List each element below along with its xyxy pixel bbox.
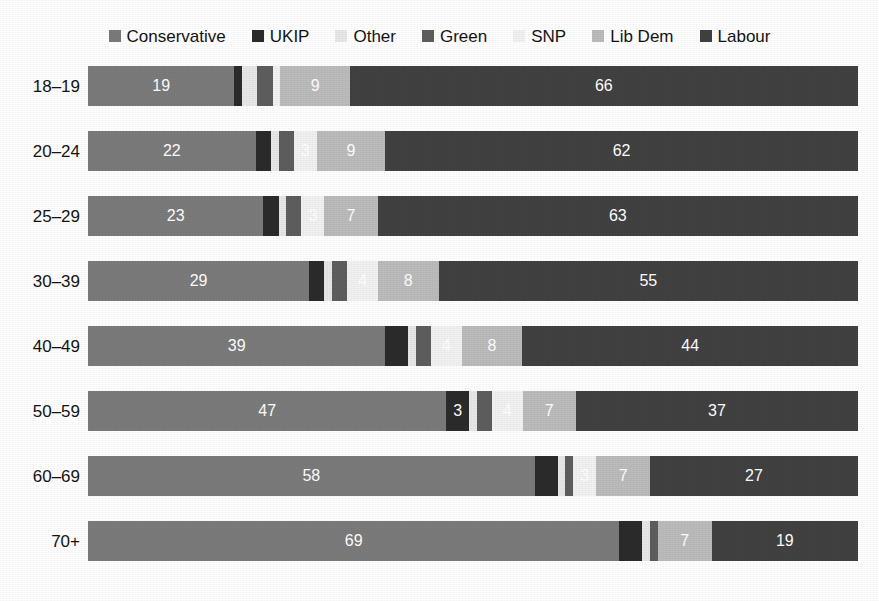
bar-segment-conservative[interactable]: 29 xyxy=(88,261,309,301)
bar-segment-green[interactable] xyxy=(477,391,492,431)
bar-segment-other[interactable] xyxy=(408,326,416,366)
bar-segment-labour[interactable]: 44 xyxy=(522,326,857,366)
bar-segment-other[interactable] xyxy=(279,196,287,236)
bar-segment-value: 47 xyxy=(258,403,276,419)
bar-segment-lib-dem[interactable]: 8 xyxy=(378,261,439,301)
stacked-bar-track: 233763 xyxy=(88,196,858,236)
bar-segment-labour[interactable]: 55 xyxy=(439,261,858,301)
bar-segment-other[interactable] xyxy=(324,261,332,301)
bar-segment-labour[interactable]: 62 xyxy=(385,131,858,171)
bar-segment-value: 29 xyxy=(190,273,208,289)
legend-item-other[interactable]: Other xyxy=(335,28,396,45)
bar-segment-lib-dem[interactable]: 7 xyxy=(523,391,576,431)
bar-segment-other[interactable] xyxy=(242,66,257,106)
legend-item-green[interactable]: Green xyxy=(422,28,487,45)
bar-segment-other[interactable] xyxy=(469,391,477,431)
bar-segment-labour[interactable]: 63 xyxy=(378,196,858,236)
bar-segment-conservative[interactable]: 19 xyxy=(88,66,234,106)
legend-item-conservative[interactable]: Conservative xyxy=(109,28,226,45)
category-axis-label: 18–19 xyxy=(0,78,80,95)
bar-row: 18–1919966 xyxy=(0,64,879,108)
bar-segment-labour[interactable]: 27 xyxy=(650,456,858,496)
bar-segment-conservative[interactable]: 39 xyxy=(88,326,385,366)
bar-segment-snp[interactable]: 4 xyxy=(347,261,377,301)
category-axis-label: 60–69 xyxy=(0,468,80,485)
bar-segment-lib-dem[interactable]: 7 xyxy=(658,521,712,561)
bar-segment-value: 55 xyxy=(639,273,657,289)
bar-segment-other[interactable] xyxy=(642,521,650,561)
stacked-bar-track: 583727 xyxy=(88,456,858,496)
bar-segment-snp[interactable]: 4 xyxy=(431,326,461,366)
bar-segment-conservative[interactable]: 47 xyxy=(88,391,446,431)
square-swatch-icon xyxy=(422,30,434,42)
bar-segment-green[interactable] xyxy=(279,131,294,171)
bar-segment-other[interactable] xyxy=(558,456,566,496)
bar-segment-value: 9 xyxy=(347,143,356,159)
bar-segment-ukip[interactable] xyxy=(234,66,242,106)
bar-segment-green[interactable] xyxy=(257,66,272,106)
bar-segment-snp[interactable]: 3 xyxy=(573,456,596,496)
legend-item-ukip[interactable]: UKIP xyxy=(252,28,310,45)
bar-segment-ukip[interactable]: 3 xyxy=(446,391,469,431)
legend-item-label: Green xyxy=(440,28,487,45)
bar-segment-ukip[interactable] xyxy=(309,261,324,301)
stacked-bar-track: 223962 xyxy=(88,131,858,171)
bar-segment-conservative[interactable]: 69 xyxy=(88,521,619,561)
bar-segment-value: 19 xyxy=(152,78,170,94)
bar-segment-value: 23 xyxy=(167,208,185,224)
bar-segment-lib-dem[interactable]: 8 xyxy=(462,326,523,366)
stacked-bar-track: 394844 xyxy=(88,326,858,366)
bar-segment-labour[interactable]: 19 xyxy=(712,521,858,561)
bar-segment-other[interactable] xyxy=(271,131,279,171)
legend-item-label: Other xyxy=(353,28,396,45)
bar-segment-value: 69 xyxy=(345,533,363,549)
bar-segment-conservative[interactable]: 23 xyxy=(88,196,263,236)
legend-item-label: Labour xyxy=(718,28,771,45)
bar-segment-snp[interactable]: 3 xyxy=(301,196,324,236)
bar-segment-green[interactable] xyxy=(650,521,658,561)
bar-segment-lib-dem[interactable]: 7 xyxy=(596,456,650,496)
square-swatch-icon xyxy=(252,30,264,42)
bar-row: 50–594734737 xyxy=(0,389,879,433)
legend-item-snp[interactable]: SNP xyxy=(513,28,566,45)
bar-segment-snp[interactable] xyxy=(273,66,281,106)
bar-segment-green[interactable] xyxy=(565,456,573,496)
bar-segment-value: 7 xyxy=(680,533,689,549)
bar-segment-lib-dem[interactable]: 9 xyxy=(317,131,386,171)
square-swatch-icon xyxy=(700,30,712,42)
bar-segment-value: 66 xyxy=(595,78,613,94)
bar-segment-green[interactable] xyxy=(332,261,347,301)
bar-segment-labour[interactable]: 66 xyxy=(350,66,858,106)
legend-item-label: SNP xyxy=(531,28,566,45)
bar-segment-value: 37 xyxy=(708,403,726,419)
category-axis-label: 70+ xyxy=(0,533,80,550)
bar-segment-ukip[interactable] xyxy=(263,196,278,236)
category-axis-label: 25–29 xyxy=(0,208,80,225)
category-axis-label: 20–24 xyxy=(0,143,80,160)
bar-segment-value: 4 xyxy=(503,403,512,419)
bar-segment-lib-dem[interactable]: 7 xyxy=(324,196,377,236)
bar-segment-green[interactable] xyxy=(416,326,431,366)
bar-segment-value: 3 xyxy=(301,143,310,159)
bar-segment-ukip[interactable] xyxy=(535,456,558,496)
category-axis-label: 40–49 xyxy=(0,338,80,355)
bar-segment-value: 7 xyxy=(545,403,554,419)
bar-segment-lib-dem[interactable]: 9 xyxy=(280,66,349,106)
bar-segment-value: 4 xyxy=(442,338,451,354)
legend-item-labour[interactable]: Labour xyxy=(700,28,771,45)
bar-segment-value: 7 xyxy=(347,208,356,224)
stacked-bar-chart: 18–191996620–2422396225–2923376330–39294… xyxy=(0,62,879,582)
bar-segment-labour[interactable]: 37 xyxy=(576,391,858,431)
bar-segment-green[interactable] xyxy=(286,196,301,236)
bar-segment-conservative[interactable]: 58 xyxy=(88,456,535,496)
square-swatch-icon xyxy=(335,30,347,42)
bar-segment-snp[interactable]: 4 xyxy=(492,391,522,431)
bar-segment-ukip[interactable] xyxy=(385,326,408,366)
bar-segment-conservative[interactable]: 22 xyxy=(88,131,256,171)
bar-segment-value: 3 xyxy=(308,208,317,224)
bar-segment-snp[interactable]: 3 xyxy=(294,131,317,171)
legend-item-lib-dem[interactable]: Lib Dem xyxy=(592,28,673,45)
bar-row: 40–49394844 xyxy=(0,324,879,368)
bar-segment-ukip[interactable] xyxy=(619,521,642,561)
bar-segment-ukip[interactable] xyxy=(256,131,271,171)
